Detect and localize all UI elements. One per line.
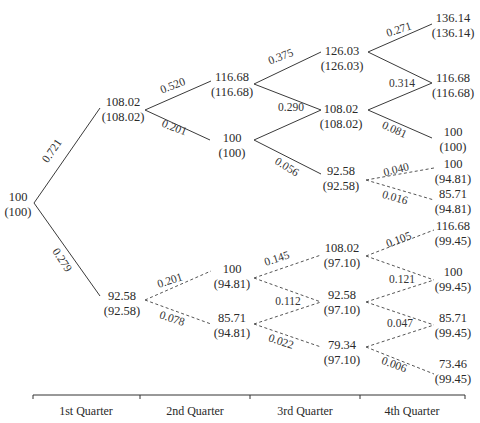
node-value: 108.02	[325, 241, 359, 255]
edge-probability: 0.721	[39, 136, 64, 164]
edge-probability: 0.520	[158, 75, 187, 96]
node-value: 116.68	[436, 71, 470, 85]
tree-node: 126.03(126.03)	[321, 44, 364, 73]
node-expected-value: (99.45)	[435, 326, 471, 340]
node-value: 116.68	[436, 219, 470, 233]
node-expected-value: (92.58)	[104, 304, 140, 318]
edge-r-a2	[34, 203, 100, 296]
node-value: 100	[444, 125, 463, 139]
edge-probability: 0.279	[50, 246, 74, 274]
node-expected-value: (116.68)	[211, 85, 253, 99]
edge-probability: 0.201	[156, 270, 185, 289]
edge-b2-c2	[254, 110, 321, 140]
tree-canvas: 0.7210.2790.5200.2010.2010.0780.3750.290…	[0, 0, 480, 423]
tree-node: 73.46(99.45)	[435, 357, 471, 386]
tree-node: 100(99.45)	[435, 265, 471, 294]
node-value: 100	[223, 262, 242, 276]
node-value: 92.58	[108, 289, 136, 303]
node-expected-value: (94.81)	[435, 172, 471, 186]
edge-probability: 0.145	[263, 248, 292, 267]
quarter-label: 2nd Quarter	[166, 404, 224, 418]
node-expected-value: (94.81)	[214, 277, 250, 291]
quarter-label: 1st Quarter	[59, 404, 113, 418]
node-value: 108.02	[324, 102, 358, 116]
edge-probability: 0.016	[381, 188, 409, 207]
edge-probability: 0.271	[385, 19, 414, 38]
node-value: 108.02	[106, 95, 140, 109]
node-expected-value: (97.10)	[324, 303, 360, 317]
tree-node: 108.02(108.02)	[320, 102, 363, 131]
node-expected-value: (116.68)	[432, 86, 474, 100]
edge-probability: 0.314	[389, 77, 415, 89]
node-value: 100	[444, 265, 463, 279]
edge-probability: 0.112	[275, 295, 301, 307]
tree-node: 100(100)	[218, 131, 245, 160]
node-value: 136.14	[436, 11, 471, 25]
tree-node: 136.14(136.14)	[432, 11, 475, 40]
node-expected-value: (99.45)	[435, 234, 471, 248]
node-expected-value: (99.45)	[435, 372, 471, 386]
node-expected-value: (108.02)	[320, 117, 363, 131]
node-value: 100	[444, 157, 463, 171]
edge-probability: 0.290	[278, 101, 304, 113]
quarter-label: 4th Quarter	[385, 404, 440, 418]
node-expected-value: (100)	[4, 205, 31, 219]
edge-probability: 0.040	[382, 160, 410, 178]
node-value: 100	[9, 190, 28, 204]
edge-probability: 0.105	[384, 229, 413, 249]
node-value: 92.58	[328, 288, 356, 302]
node-expected-value: (94.81)	[435, 202, 471, 216]
tree-node: 100(100)	[4, 190, 31, 219]
quarter-axis: 1st Quarter2nd Quarter3rd Quarter4th Qua…	[33, 395, 465, 418]
node-value: 73.46	[439, 357, 467, 371]
node-value: 126.03	[325, 44, 359, 58]
tree-node: 85.71(94.81)	[435, 187, 471, 216]
node-value: 79.34	[328, 338, 357, 352]
edge-probability: 0.375	[266, 46, 295, 67]
node-value: 85.71	[439, 187, 467, 201]
node-value: 85.71	[439, 311, 467, 325]
edge-probability: 0.022	[267, 331, 296, 350]
tree-node: 85.71(99.45)	[435, 311, 471, 340]
tree-node: 108.02(97.10)	[324, 241, 360, 270]
tree-node: 92.58(97.10)	[324, 288, 360, 317]
edge-probability: 0.201	[160, 117, 189, 138]
tree-node: 116.68(116.68)	[211, 70, 253, 99]
tree-node: 100(94.81)	[435, 157, 471, 186]
tree-node: 116.68(116.68)	[432, 71, 474, 100]
node-value: 116.68	[215, 70, 249, 84]
tree-node: 108.02(108.02)	[102, 95, 145, 124]
tree-node: 92.58(92.58)	[104, 289, 140, 318]
tree-node: 92.58(92.58)	[323, 164, 359, 193]
node-expected-value: (100)	[218, 146, 245, 160]
tree-node: 79.34(97.10)	[324, 338, 360, 367]
node-value: 100	[223, 131, 242, 145]
edge-probability: 0.006	[380, 354, 409, 374]
node-expected-value: (126.03)	[321, 59, 364, 73]
node-expected-value: (100)	[439, 140, 466, 154]
tree-node: 100(100)	[439, 125, 466, 154]
node-expected-value: (92.58)	[323, 179, 359, 193]
edge-probability: 0.121	[389, 273, 415, 285]
edge-probability: 0.047	[387, 317, 413, 329]
node-expected-value: (108.02)	[102, 110, 145, 124]
quarter-label: 3rd Quarter	[277, 404, 333, 418]
tree-node: 85.71(94.81)	[214, 311, 250, 340]
node-expected-value: (97.10)	[324, 353, 360, 367]
node-expected-value: (94.81)	[214, 326, 250, 340]
node-value: 92.58	[327, 164, 355, 178]
tree-node: 100(94.81)	[214, 262, 250, 291]
node-expected-value: (99.45)	[435, 280, 471, 294]
node-expected-value: (97.10)	[324, 256, 360, 270]
binomial-tree-diagram: 0.7210.2790.5200.2010.2010.0780.3750.290…	[0, 0, 480, 423]
edge-probability: 0.078	[158, 308, 187, 327]
edge-probability: 0.056	[273, 155, 302, 179]
edge-probability: 0.081	[380, 119, 409, 141]
node-expected-value: (136.14)	[432, 26, 475, 40]
node-value: 85.71	[218, 311, 246, 325]
tree-node: 116.68(99.45)	[435, 219, 471, 248]
